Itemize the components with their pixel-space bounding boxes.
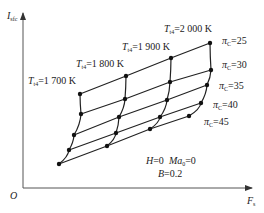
data-point bbox=[72, 133, 76, 137]
x-axis-label: Fs bbox=[247, 196, 255, 207]
pi-25-label: πC=25 bbox=[222, 36, 247, 47]
data-point bbox=[124, 74, 128, 78]
data-point bbox=[169, 56, 173, 60]
t-2000-label: Tt4=2 000 K bbox=[164, 24, 212, 35]
t-1700-label: Tt4=1 700 K bbox=[28, 76, 76, 87]
data-point bbox=[205, 83, 209, 87]
t4-line bbox=[59, 94, 81, 164]
data-point bbox=[105, 144, 109, 148]
data-point bbox=[123, 97, 127, 101]
t-1800-label: Tt4=1 800 K bbox=[76, 59, 124, 70]
data-point bbox=[208, 41, 212, 45]
data-point bbox=[165, 98, 169, 102]
data-point bbox=[168, 80, 172, 84]
data-point bbox=[78, 92, 82, 96]
y-axis-label: Isfc bbox=[7, 11, 17, 22]
t-1900-label: Tt4=1 900 K bbox=[122, 42, 170, 53]
pi-line bbox=[69, 103, 201, 150]
data-point bbox=[117, 115, 121, 119]
pi-45-label: πC=45 bbox=[204, 117, 229, 128]
condition-b-label: B=0.2 bbox=[158, 169, 182, 179]
data-point bbox=[187, 114, 191, 118]
pi-30-label: πC=30 bbox=[222, 60, 247, 71]
data-point bbox=[158, 115, 162, 119]
data-point bbox=[67, 148, 71, 152]
t4-line bbox=[189, 43, 211, 116]
data-point bbox=[57, 162, 61, 166]
data-point bbox=[114, 131, 118, 135]
data-point bbox=[79, 112, 83, 116]
data-point bbox=[209, 68, 213, 72]
data-point bbox=[199, 101, 203, 105]
data-point bbox=[148, 127, 152, 131]
pi-40-label: πC=40 bbox=[213, 100, 238, 111]
pi-35-label: πC=35 bbox=[219, 81, 244, 92]
origin-label: O bbox=[10, 191, 17, 201]
condition-h-ma-label: H=0 Ma0=0 bbox=[146, 156, 196, 167]
